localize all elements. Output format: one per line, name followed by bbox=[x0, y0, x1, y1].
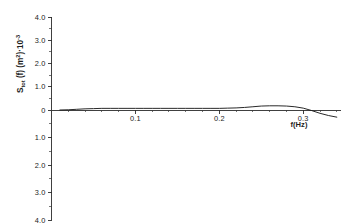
data-series-line bbox=[60, 106, 337, 117]
y-tick-label: 0 bbox=[41, 106, 45, 115]
x-axis-tick-labels: 0.10.20.3 bbox=[130, 114, 309, 123]
y-tick-label: 1.0 bbox=[35, 133, 46, 142]
y-tick-label: 3.0 bbox=[35, 188, 46, 197]
y-axis-tick-labels: 4.03.02.01.001.02.03.04.0 bbox=[35, 13, 46, 224]
x-tick-label: 0.1 bbox=[130, 114, 141, 123]
spectrum-plot: 4.03.02.01.001.02.03.04.0 0.10.20.3 Stot… bbox=[0, 0, 346, 224]
y-tick-label: 1.0 bbox=[35, 82, 46, 91]
y-axis-major-ticks bbox=[48, 17, 52, 220]
figure-container: 4.03.02.01.001.02.03.04.0 0.10.20.3 Stot… bbox=[0, 0, 346, 224]
y-tick-label: 4.0 bbox=[35, 216, 46, 224]
x-tick-label: 0.2 bbox=[214, 114, 225, 123]
y-axis-title: Stot (f) (m2)·10-3 bbox=[15, 35, 26, 93]
y-tick-label: 4.0 bbox=[35, 13, 46, 22]
y-tick-label: 2.0 bbox=[35, 161, 46, 170]
y-tick-label: 2.0 bbox=[35, 59, 46, 68]
x-axis-major-ticks bbox=[135, 110, 303, 114]
x-axis-title: f(Hz) bbox=[291, 120, 308, 129]
y-tick-label: 3.0 bbox=[35, 36, 46, 45]
